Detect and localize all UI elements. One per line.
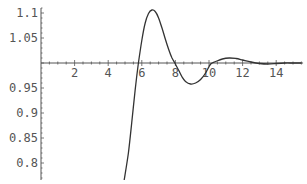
x-tick-label: 12 <box>235 66 249 80</box>
x-tick-label: 4 <box>105 66 112 80</box>
x-tick-label: 10 <box>202 66 216 80</box>
x-tick-label: 14 <box>269 66 283 80</box>
y-tick-label: 1.1 <box>16 6 38 20</box>
y-tick-label: 0.85 <box>9 131 38 145</box>
x-tick-label: 2 <box>71 66 78 80</box>
line-chart: 2468101214 0.80.850.90.951.051.1 <box>0 0 307 184</box>
y-tick-label: 1.05 <box>9 31 38 45</box>
y-tick-labels: 0.80.850.90.951.051.1 <box>9 6 38 170</box>
minor-ticks <box>41 8 301 178</box>
data-series-line <box>124 10 301 180</box>
y-tick-label: 0.8 <box>16 156 38 170</box>
y-tick-label: 0.9 <box>16 106 38 120</box>
y-tick-label: 0.95 <box>9 81 38 95</box>
x-tick-label: 6 <box>138 66 145 80</box>
